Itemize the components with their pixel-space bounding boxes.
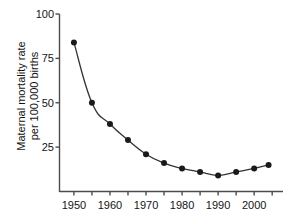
data-point-marker	[233, 169, 239, 175]
data-point-marker	[71, 39, 77, 45]
x-axis-tick-label: 1980	[170, 199, 194, 211]
data-point-marker	[179, 165, 185, 171]
data-point-marker	[89, 100, 95, 106]
data-point-marker	[125, 137, 131, 143]
data-point-markers	[71, 39, 272, 178]
y-axis-tick-label: 100	[24, 8, 54, 20]
data-point-marker	[197, 169, 203, 175]
y-axis-tick-label: 50	[24, 97, 54, 109]
data-point-marker	[107, 121, 113, 127]
y-axis-tick-label: 75	[24, 52, 54, 64]
data-point-marker	[266, 162, 272, 168]
y-axis-tick-label: 25	[24, 141, 54, 153]
data-point-marker	[143, 151, 149, 157]
x-axis-tick-label: 1950	[62, 199, 86, 211]
plot-area	[0, 0, 289, 222]
x-axis-tick-label: 1990	[206, 199, 230, 211]
x-axis-tick-label: 2000	[242, 199, 266, 211]
x-axis-tick-label: 1960	[98, 199, 122, 211]
data-point-marker	[251, 165, 257, 171]
data-series-line	[74, 42, 269, 175]
data-point-marker	[215, 173, 221, 179]
chart-figure: Maternal mortality rate per 100,000 birt…	[0, 0, 289, 222]
data-point-marker	[161, 160, 167, 166]
x-axis-tick-label: 1970	[134, 199, 158, 211]
